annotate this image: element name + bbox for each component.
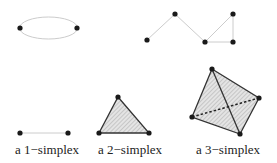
- two-simplex-label: a 2−simplex: [98, 142, 162, 158]
- graph-complex: [144, 11, 235, 44]
- multi-edge-graph: [17, 17, 79, 39]
- three-simplex: [189, 66, 261, 136]
- three-simplex-label: a 3−simplex: [196, 142, 260, 158]
- one-simplex: [17, 130, 70, 135]
- two-simplex: [96, 94, 151, 135]
- simplex-diagram: [0, 0, 277, 163]
- one-simplex-label: a 1−simplex: [15, 142, 79, 158]
